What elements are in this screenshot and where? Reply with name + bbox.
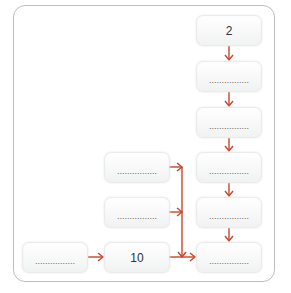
box-r6-blank[interactable]: ................	[197, 243, 261, 272]
arrow-l1-m3	[88, 253, 103, 261]
box-value: 10	[130, 251, 143, 265]
blank-answer-field: ................	[209, 211, 249, 221]
box-value: 2	[226, 24, 233, 38]
box-r5-blank[interactable]: ................	[197, 198, 261, 227]
box-m2-blank[interactable]: ................	[105, 198, 169, 227]
box-l1-blank[interactable]: ................	[23, 243, 87, 272]
arrow-r4-r5	[225, 183, 233, 196]
blank-answer-field: ................	[209, 121, 249, 131]
arrow-r5-r6	[225, 228, 233, 241]
arrow-r2-r3	[225, 92, 233, 106]
blank-answer-field: ................	[117, 166, 157, 176]
blank-answer-field: ................	[117, 211, 157, 221]
blank-answer-field: ................	[209, 75, 249, 85]
arrow-m2-bus	[169, 208, 182, 216]
box-m3: 10	[105, 243, 169, 272]
box-r4-blank[interactable]: ................	[197, 153, 261, 182]
arrow-m1-bus	[169, 163, 182, 171]
blank-answer-field: ................	[209, 166, 249, 176]
blank-answer-field: ................	[209, 256, 249, 266]
box-r1: 2	[197, 16, 261, 45]
box-r2-blank[interactable]: ................	[197, 62, 261, 91]
box-m1-blank[interactable]: ................	[105, 153, 169, 182]
blank-answer-field: ................	[35, 256, 75, 266]
arrow-r3-r4	[225, 138, 233, 151]
box-r3-blank[interactable]: ................	[197, 108, 261, 137]
arrow-r1-r2	[225, 46, 233, 60]
